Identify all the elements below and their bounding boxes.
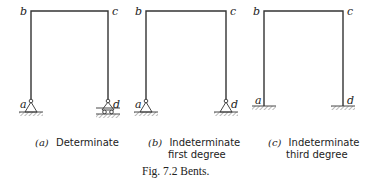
panel-a-determinate: b c a d (a) Determinate	[19, 5, 120, 148]
frame-c	[264, 11, 343, 106]
caption-b-line2: first degree	[168, 149, 226, 160]
node-label-b: b	[135, 5, 142, 18]
frame-b	[146, 11, 226, 100]
caption-a-tag: (a)	[35, 137, 49, 148]
fixed-support-icon	[331, 106, 355, 110]
fixed-support-icon	[252, 106, 276, 110]
node-label-b: b	[20, 5, 27, 18]
frame-a	[31, 11, 108, 100]
caption-a: (a) Determinate	[35, 137, 119, 148]
bents-figure: b c a d (a) Determinate b c a	[0, 0, 371, 184]
caption-b-tag: (b)	[148, 137, 162, 148]
node-label-d: d	[113, 98, 120, 111]
caption-c-line2: third degree	[286, 149, 348, 160]
caption-c-text: Indeterminate	[289, 137, 360, 148]
node-label-c: c	[112, 5, 118, 18]
node-label-c: c	[230, 5, 236, 18]
panel-c-indeterminate-third-degree: b c a d (c) Indeterminate third degree	[252, 5, 359, 160]
caption-b-text: Indeterminate	[169, 137, 240, 148]
node-label-b: b	[253, 5, 260, 18]
caption-b-line1: (b) Indeterminate	[148, 137, 240, 148]
node-label-a: a	[20, 98, 27, 111]
node-label-a: a	[135, 98, 142, 111]
caption-a-text: Determinate	[56, 137, 119, 148]
node-label-d: d	[231, 98, 238, 111]
caption-c-line1: (c) Indeterminate	[268, 137, 359, 148]
figure-title: Fig. 7.2 Bents.	[142, 165, 210, 178]
node-label-a: a	[255, 94, 262, 107]
node-label-d: d	[347, 94, 354, 107]
caption-c-tag: (c)	[268, 137, 282, 148]
node-label-c: c	[347, 5, 353, 18]
panel-b-indeterminate-first-degree: b c a d (b) Indeterminate first degree	[134, 5, 240, 160]
